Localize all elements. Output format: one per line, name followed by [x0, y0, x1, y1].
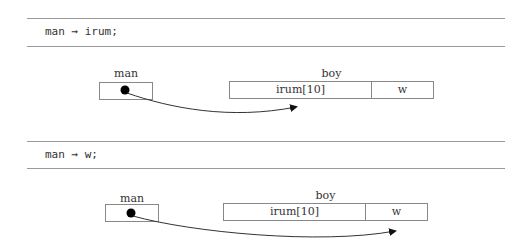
pointer-arrows — [0, 0, 530, 250]
arrow-to-irum — [127, 93, 296, 113]
arrow-to-w — [133, 216, 395, 237]
